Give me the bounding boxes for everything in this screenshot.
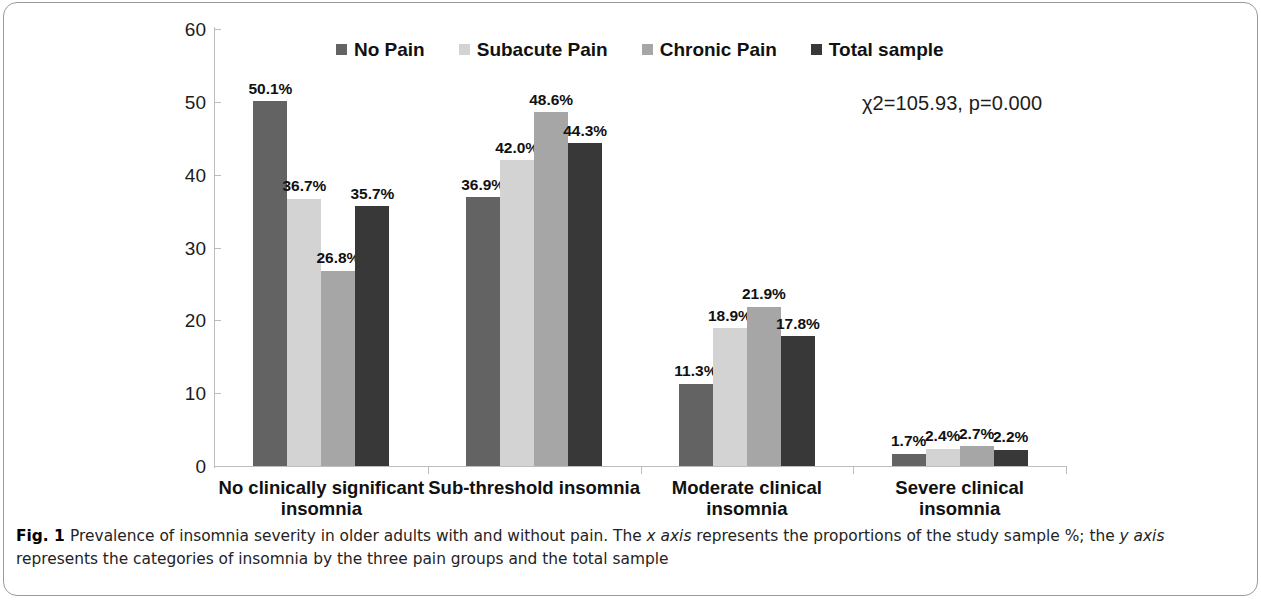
bar-value-label: 18.9% — [708, 308, 752, 324]
caption-x-axis-term: x axis — [647, 527, 692, 545]
y-axis-tick-label: 0 — [160, 457, 206, 476]
bar-group: 1.7%2.4%2.7%2.2% — [892, 29, 1028, 466]
x-axis-category-label: No clinically significant insomnia — [215, 478, 428, 519]
bar-value-label: 36.9% — [461, 177, 505, 193]
bar[interactable] — [713, 328, 747, 466]
y-axis-tick-label: 10 — [160, 384, 206, 403]
bar-group: 11.3%18.9%21.9%17.8% — [679, 29, 815, 466]
bar-column[interactable]: 48.6% — [534, 29, 568, 466]
caption-text-part-3: represents the categories of insomnia by… — [16, 550, 668, 568]
y-axis-tick-label: 60 — [160, 20, 206, 39]
bar[interactable] — [466, 197, 500, 466]
bar-column[interactable]: 35.7% — [355, 29, 389, 466]
bar-column[interactable]: 1.7% — [892, 29, 926, 466]
x-axis-category-label: Severe clinical insomnia — [853, 478, 1066, 519]
y-axis-tick-label: 20 — [160, 311, 206, 330]
bar-value-label: 44.3% — [563, 123, 607, 139]
x-axis-separator-tick — [641, 466, 642, 474]
bar-column[interactable]: 36.7% — [287, 29, 321, 466]
bar-value-label: 2.7% — [959, 426, 994, 442]
x-axis-separator-tick — [853, 466, 854, 474]
plot-area: 50.1%36.7%26.8%35.7%36.9%42.0%48.6%44.3%… — [215, 29, 1066, 466]
bar-column[interactable]: 44.3% — [568, 29, 602, 466]
bar[interactable] — [534, 112, 568, 466]
bar-value-label: 11.3% — [674, 363, 717, 379]
bar-group: 36.9%42.0%48.6%44.3% — [466, 29, 602, 466]
y-axis-tick-label: 40 — [160, 165, 206, 184]
bar-value-label: 26.8% — [316, 250, 360, 266]
bar-chart: No PainSubacute PainChronic PainTotal sa… — [0, 0, 1261, 512]
bar-column[interactable]: 17.8% — [781, 29, 815, 466]
y-axis-tick-label: 50 — [160, 92, 206, 111]
bar-column[interactable]: 2.4% — [926, 29, 960, 466]
bar-value-label: 35.7% — [350, 186, 394, 202]
bar[interactable] — [253, 101, 287, 466]
bar-column[interactable]: 2.2% — [994, 29, 1028, 466]
bar[interactable] — [568, 143, 602, 466]
bar-column[interactable]: 26.8% — [321, 29, 355, 466]
bar-column[interactable]: 50.1% — [253, 29, 287, 466]
bar-column[interactable]: 36.9% — [466, 29, 500, 466]
bar-value-label: 1.7% — [891, 433, 926, 449]
x-axis-category-label: Sub-threshold insomnia — [428, 478, 641, 499]
y-axis-tick-mark — [214, 466, 221, 467]
bar[interactable] — [892, 454, 926, 466]
bar-value-label: 2.2% — [993, 429, 1028, 445]
bar[interactable] — [287, 199, 321, 466]
x-axis-separator-tick — [1066, 466, 1067, 474]
bar[interactable] — [781, 336, 815, 466]
bar-value-label: 42.0% — [495, 140, 539, 156]
bar[interactable] — [355, 206, 389, 466]
bar-value-label: 21.9% — [742, 286, 786, 302]
figure-page: No PainSubacute PainChronic PainTotal sa… — [0, 0, 1261, 600]
bar-column[interactable]: 2.7% — [960, 29, 994, 466]
caption-y-axis-term: y axis — [1120, 527, 1165, 545]
bar-column[interactable]: 11.3% — [679, 29, 713, 466]
bar-value-label: 2.4% — [925, 428, 960, 444]
bar[interactable] — [500, 160, 534, 466]
bar[interactable] — [960, 446, 994, 466]
bar-column[interactable]: 18.9% — [713, 29, 747, 466]
x-axis-separator-tick — [428, 466, 429, 474]
bar-value-label: 48.6% — [529, 92, 573, 108]
figure-caption: Fig. 1 Prevalence of insomnia severity i… — [16, 525, 1244, 572]
figure-number: Fig. 1 — [16, 527, 70, 545]
bar-column[interactable]: 21.9% — [747, 29, 781, 466]
bar[interactable] — [321, 271, 355, 466]
caption-text-part-2: represents the proportions of the study … — [691, 527, 1119, 545]
bar-value-label: 17.8% — [776, 316, 820, 332]
bar[interactable] — [926, 449, 960, 466]
y-axis-tick-label: 30 — [160, 238, 206, 257]
caption-text-part-1: Prevalence of insomnia severity in older… — [70, 527, 647, 545]
x-axis-category-label: Moderate clinical insomnia — [641, 478, 854, 519]
bar-value-label: 36.7% — [282, 178, 326, 194]
bar[interactable] — [994, 450, 1028, 466]
bar-group: 50.1%36.7%26.8%35.7% — [253, 29, 389, 466]
bar[interactable] — [679, 384, 713, 466]
bar-value-label: 50.1% — [248, 81, 292, 97]
